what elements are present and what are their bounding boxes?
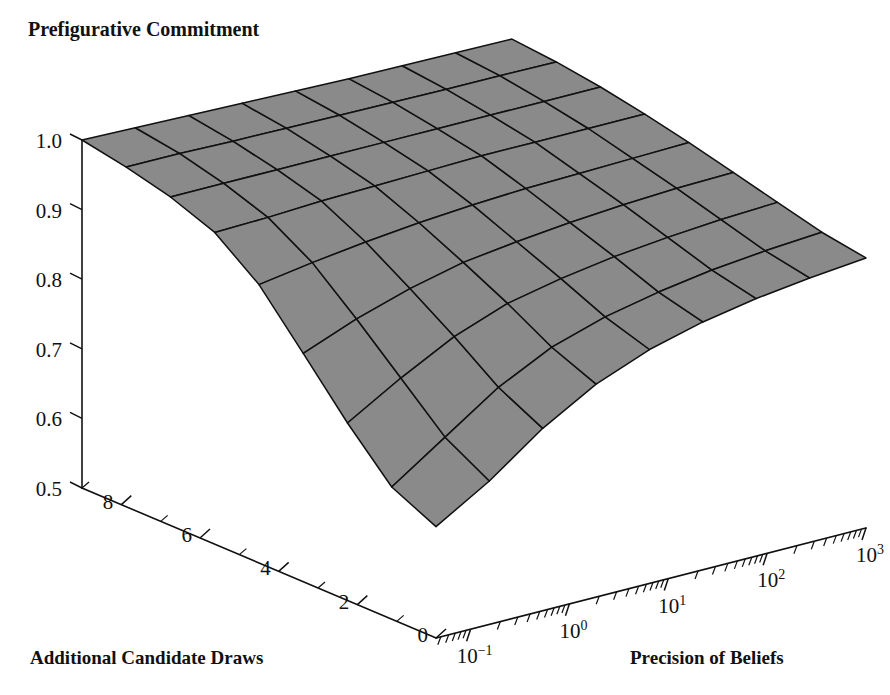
z-tick-label-1: 0.9 <box>36 199 62 223</box>
z-tick-label-2: 0.8 <box>36 268 62 292</box>
x-tick-1 <box>565 604 569 616</box>
y-tick-0 <box>121 496 131 505</box>
y-tick-label-3: 2 <box>339 590 350 614</box>
z-tick-1 <box>70 204 82 210</box>
y-tick-label-1: 6 <box>182 523 193 547</box>
z-tick-4 <box>70 412 82 418</box>
z-tick-2 <box>70 273 82 279</box>
surface-plot-figure: 1.00.90.80.70.60.58642010−1100101102103 … <box>0 0 890 695</box>
y-minor-tick-2 <box>239 549 246 555</box>
y-minor-tick-3 <box>318 582 325 588</box>
x-tick-label-2: 101 <box>658 593 686 618</box>
x-axis-title: Precision of Beliefs <box>630 647 784 668</box>
x-tick-4 <box>862 528 866 540</box>
figure-canvas: 1.00.90.80.70.60.58642010−1100101102103 … <box>0 0 890 695</box>
x-tick-label-4: 103 <box>856 542 884 567</box>
y-axis-title: Additional Candidate Draws <box>30 647 263 668</box>
x-tick-label-3: 102 <box>757 567 785 592</box>
z-tick-label-3: 0.7 <box>36 338 62 362</box>
y-tick-1 <box>200 529 210 538</box>
x-axis-line <box>436 528 866 638</box>
y-tick-label-2: 4 <box>260 556 271 580</box>
page-title: Prefigurative Commitment <box>28 18 260 41</box>
y-minor-tick-1 <box>161 515 168 521</box>
y-minor-tick-0 <box>82 482 89 488</box>
z-tick-label-4: 0.6 <box>36 407 62 431</box>
y-tick-label-0: 8 <box>103 490 114 514</box>
y-tick-3 <box>357 596 367 605</box>
z-tick-0 <box>70 134 82 140</box>
y-tick-2 <box>279 562 289 571</box>
x-tick-label-0: 10−1 <box>457 643 493 668</box>
x-tick-label-1: 100 <box>559 618 587 643</box>
x-tick-3 <box>763 553 767 565</box>
z-tick-label-0: 1.0 <box>36 129 62 153</box>
y-minor-tick-4 <box>397 615 404 621</box>
z-tick-5 <box>70 482 82 488</box>
z-tick-label-5: 0.5 <box>36 477 62 501</box>
z-tick-3 <box>70 343 82 349</box>
surface-mesh <box>82 39 866 527</box>
x-tick-0 <box>467 629 471 641</box>
y-axis-line <box>82 488 436 638</box>
x-tick-2 <box>664 579 668 591</box>
y-tick-label-4: 0 <box>418 623 429 647</box>
